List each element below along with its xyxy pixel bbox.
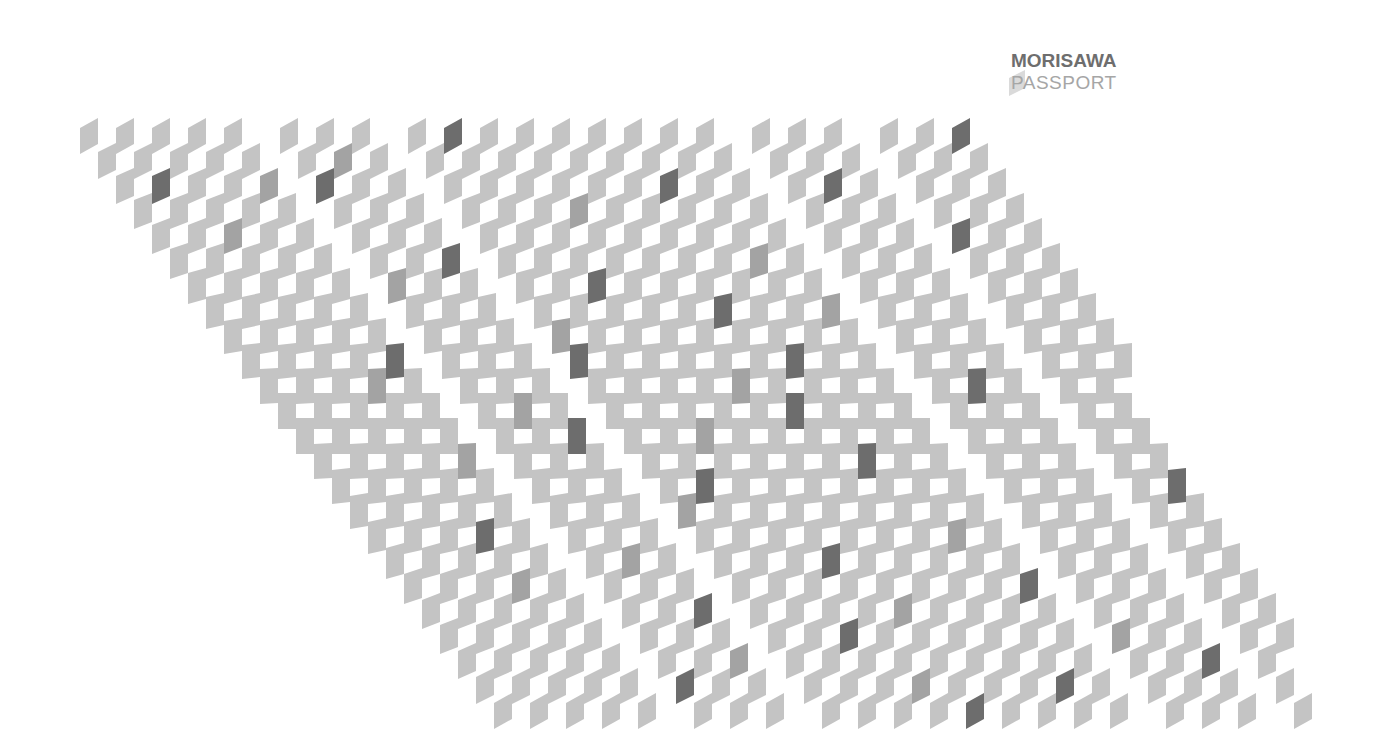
pattern-cell	[1294, 693, 1312, 729]
pattern-cell	[386, 543, 404, 579]
pattern-cell	[714, 243, 732, 279]
pattern-cell	[1276, 668, 1294, 704]
pattern-cell	[1092, 668, 1110, 704]
pattern-cell	[460, 368, 478, 404]
pattern-cell	[404, 418, 422, 454]
pattern-cell	[584, 618, 602, 654]
pattern-cell	[368, 518, 386, 554]
pattern-cell	[280, 118, 298, 154]
pattern-cell	[1024, 318, 1042, 354]
pattern-cell	[696, 318, 714, 354]
pattern-cell	[424, 218, 442, 254]
pattern-cell	[440, 568, 458, 604]
pattern-cell	[496, 368, 514, 404]
pattern-cell	[696, 168, 714, 204]
pattern-cell	[804, 318, 822, 354]
pattern-cell	[714, 343, 732, 379]
pattern-cell	[984, 668, 1002, 704]
pattern-cell	[352, 118, 370, 154]
pattern-cell	[1042, 343, 1060, 379]
pattern-cell	[404, 568, 422, 604]
pattern-cell	[1166, 693, 1184, 729]
pattern-cell	[404, 468, 422, 504]
pattern-cell	[750, 493, 768, 529]
pattern-cell	[512, 568, 530, 604]
pattern-cell	[480, 118, 498, 154]
pattern-cell	[880, 118, 898, 154]
pattern-cell	[930, 443, 948, 479]
pattern-cell	[842, 143, 860, 179]
pattern-cell	[1078, 293, 1096, 329]
pattern-cell	[1022, 393, 1040, 429]
pattern-cell	[1166, 593, 1184, 629]
pattern-cell	[606, 193, 624, 229]
pattern-cell	[332, 468, 350, 504]
pattern-cell	[606, 243, 624, 279]
pattern-cell	[930, 593, 948, 629]
pattern-cell	[750, 343, 768, 379]
pattern-cell	[604, 518, 622, 554]
pattern-cell	[896, 218, 914, 254]
pattern-cell	[206, 143, 224, 179]
pattern-cell	[534, 243, 552, 279]
pattern-cell	[622, 543, 640, 579]
pattern-cell	[730, 693, 748, 729]
pattern-cell	[1114, 393, 1132, 429]
pattern-cell	[786, 443, 804, 479]
pattern-cell	[822, 643, 840, 679]
pattern-cell	[442, 343, 460, 379]
pattern-cell	[952, 218, 970, 254]
pattern-cell	[642, 293, 660, 329]
pattern-cell	[1114, 443, 1132, 479]
pattern-cell	[116, 118, 134, 154]
pattern-cell	[966, 693, 984, 729]
pattern-cell	[894, 393, 912, 429]
pattern-cell	[1186, 543, 1204, 579]
pattern-cell	[804, 418, 822, 454]
pattern-cell	[440, 418, 458, 454]
pattern-cell	[948, 618, 966, 654]
pattern-cell	[494, 543, 512, 579]
pattern-cell	[1056, 618, 1074, 654]
pattern-cell	[1060, 318, 1078, 354]
pattern-cell	[462, 193, 480, 229]
pattern-cell	[1204, 568, 1222, 604]
pattern-cell	[1002, 543, 1020, 579]
pattern-cell	[966, 493, 984, 529]
pattern-cell	[1112, 568, 1130, 604]
pattern-cell	[1002, 643, 1020, 679]
pattern-cell	[840, 418, 858, 454]
pattern-cell	[206, 243, 224, 279]
pattern-cell	[694, 693, 712, 729]
pattern-cell	[678, 393, 696, 429]
pattern-cell	[476, 568, 494, 604]
pattern-cell	[660, 118, 678, 154]
pattern-cell	[804, 368, 822, 404]
pattern-cell	[1078, 343, 1096, 379]
pattern-cell	[678, 493, 696, 529]
pattern-cell	[224, 318, 242, 354]
pattern-cell	[422, 493, 440, 529]
pattern-cell	[822, 393, 840, 429]
pattern-cell	[1058, 543, 1076, 579]
pattern-cell	[1202, 643, 1220, 679]
pattern-cell	[260, 218, 278, 254]
pattern-cell	[660, 268, 678, 304]
pattern-cell	[750, 243, 768, 279]
pattern-cell	[948, 568, 966, 604]
pattern-cell	[858, 443, 876, 479]
pattern-cell	[530, 643, 548, 679]
pattern-cell	[984, 618, 1002, 654]
pattern-cell	[622, 593, 640, 629]
pattern-cell	[548, 568, 566, 604]
pattern-cell	[1074, 643, 1092, 679]
pattern-cell	[750, 593, 768, 629]
pattern-cell	[896, 318, 914, 354]
pattern-cell	[386, 343, 404, 379]
pattern-cell	[606, 293, 624, 329]
pattern-cell	[534, 143, 552, 179]
pattern-cell	[840, 568, 858, 604]
pattern-cell	[930, 643, 948, 679]
pattern-cell	[224, 268, 242, 304]
pattern-cell	[334, 143, 352, 179]
